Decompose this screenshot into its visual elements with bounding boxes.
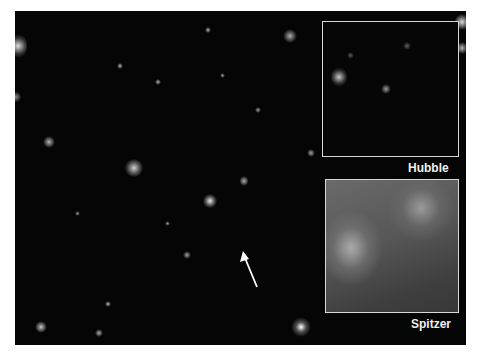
pointer-arrow-icon	[15, 11, 466, 345]
deep-field-image: Hubble Spitzer	[15, 11, 466, 345]
